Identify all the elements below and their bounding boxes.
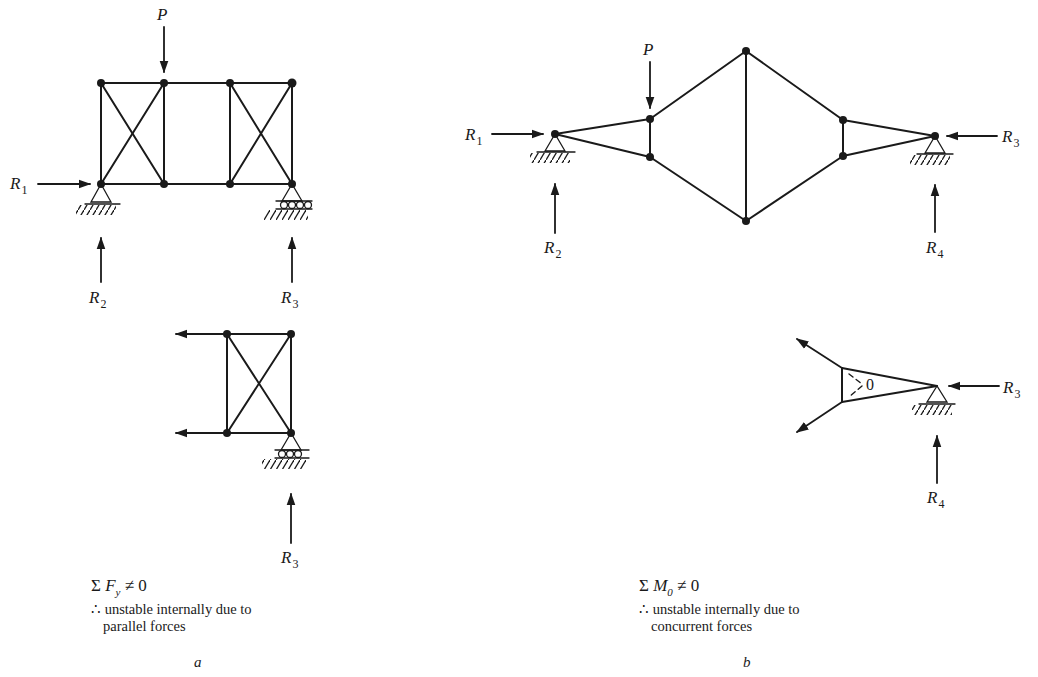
pin-support-icon — [912, 386, 955, 415]
reaction-label-R3-b: R3 — [1002, 128, 1019, 149]
moment-dashed-indicator — [849, 374, 862, 397]
caption-b: Σ M0 ≠ 0 ∴ unstable internally due to co… — [639, 577, 800, 635]
reaction-label-R4-b-free-body: R4 — [927, 489, 944, 510]
caption-a-line1: ∴ unstable internally due to — [91, 601, 252, 617]
moment-label: 0 — [866, 377, 874, 393]
roller-support-icon — [262, 433, 309, 469]
panel-letter-a: a — [194, 654, 202, 671]
reaction-label-R3-a-free-body: R3 — [281, 549, 298, 570]
reaction-label-R1-a: R1 — [10, 175, 27, 196]
reaction-label-R2-b: R2 — [544, 239, 561, 260]
reaction-label-R3-a: R3 — [281, 289, 298, 310]
caption-b-line2: concurrent forces — [639, 618, 800, 635]
reaction-label-R4-b: R4 — [926, 239, 943, 260]
roller-support-icon — [264, 184, 312, 220]
pin-support-icon — [530, 134, 575, 163]
reaction-label-R1-b: R1 — [465, 126, 482, 147]
load-label-P-a: P — [157, 6, 167, 23]
load-label-P-b: P — [643, 41, 653, 58]
caption-a-line2: parallel forces — [91, 618, 252, 635]
truss-a-joints — [97, 79, 297, 189]
truss-figure — [0, 0, 1038, 677]
truss-a-full — [101, 83, 292, 184]
reaction-label-R2-a: R2 — [89, 289, 106, 310]
equation-a: Σ Fy ≠ 0 — [91, 576, 147, 595]
pin-support-icon — [76, 184, 120, 215]
truss-a-free-body — [227, 334, 291, 433]
equation-b: Σ M0 ≠ 0 — [639, 576, 699, 595]
truss-b-full — [555, 51, 935, 221]
panel-letter-b: b — [743, 654, 751, 671]
caption-a: Σ Fy ≠ 0 ∴ unstable internally due to pa… — [91, 577, 252, 635]
reaction-label-R3-b-free-body: R3 — [1003, 379, 1020, 400]
caption-b-line1: ∴ unstable internally due to — [639, 601, 800, 617]
